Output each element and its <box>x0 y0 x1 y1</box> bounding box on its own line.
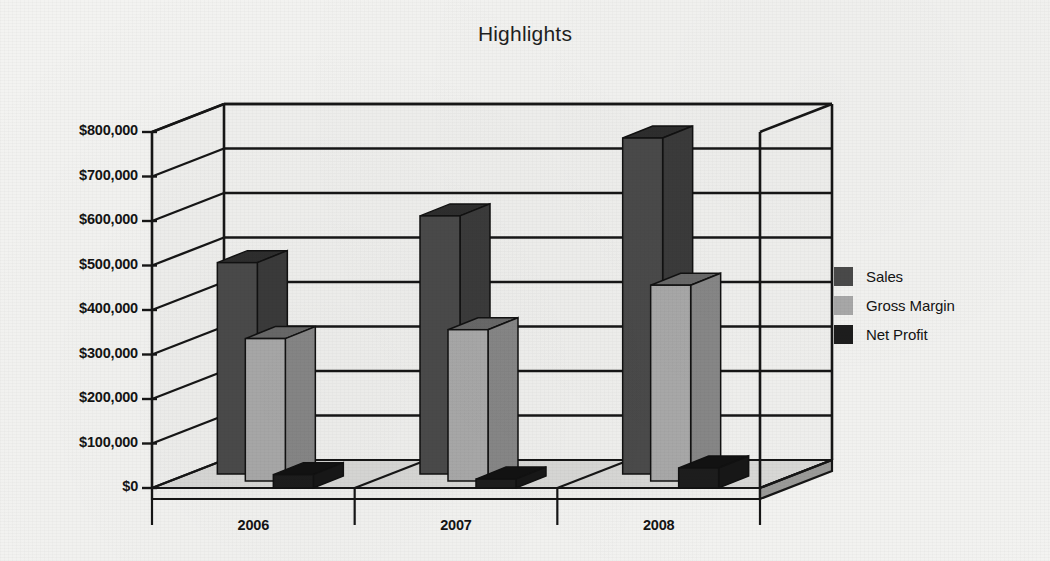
bar-front-face <box>476 479 516 488</box>
chart-legend: SalesGross MarginNet Profit <box>834 262 955 349</box>
y-axis-label: $300,000 <box>79 345 138 361</box>
bar-front-face <box>448 330 488 481</box>
legend-item-gross-margin[interactable]: Gross Margin <box>834 291 955 320</box>
bar-front-face <box>651 285 691 481</box>
legend-item-net-profit[interactable]: Net Profit <box>834 320 955 349</box>
bar-front-face <box>273 475 313 488</box>
legend-label: Gross Margin <box>866 297 955 314</box>
bar-gross-margin-2008 <box>651 273 721 481</box>
y-axis-label: $100,000 <box>79 434 138 450</box>
bar-side-face <box>488 318 518 481</box>
x-axis-label-2008: 2008 <box>557 517 760 533</box>
y-axis-label: $600,000 <box>79 211 138 227</box>
x-axis-label-2007: 2007 <box>355 517 558 533</box>
y-axis-label: $500,000 <box>79 256 138 272</box>
y-axis-label: $700,000 <box>79 167 138 183</box>
y-axis-label: $800,000 <box>79 122 138 138</box>
x-axis-label-2006: 2006 <box>152 517 355 533</box>
legend-swatch-icon <box>834 325 853 344</box>
plot-floor-front <box>152 488 760 499</box>
bar-gross-margin-2007 <box>448 318 518 481</box>
legend-swatch-icon <box>834 267 853 286</box>
legend-swatch-icon <box>834 296 853 315</box>
legend-label: Sales <box>866 268 903 285</box>
y-axis-label: $0 <box>122 478 138 494</box>
bar-side-face <box>285 327 315 481</box>
y-axis-label: $200,000 <box>79 389 138 405</box>
bar-gross-margin-2006 <box>245 327 315 481</box>
y-axis-label: $400,000 <box>79 300 138 316</box>
bar-side-face <box>691 273 721 481</box>
legend-item-sales[interactable]: Sales <box>834 262 955 291</box>
bar-front-face <box>679 468 719 488</box>
bar-front-face <box>245 339 285 481</box>
legend-label: Net Profit <box>866 326 928 343</box>
